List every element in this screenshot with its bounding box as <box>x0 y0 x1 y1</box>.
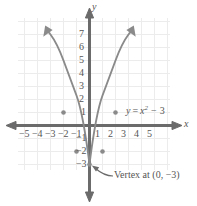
y-axis-arrow-down <box>85 192 93 202</box>
y-tick-label-1: 1 <box>81 107 86 117</box>
x-tick-label-neg4: −4 <box>32 129 42 139</box>
equation-lhs: y <box>126 105 130 116</box>
x-tick-label-5: 5 <box>147 129 152 139</box>
point-2-1 <box>113 110 118 115</box>
x-axis-arrow-right <box>172 121 182 129</box>
x-tick-label-neg3: −3 <box>45 129 55 139</box>
x-tick-label-neg2: −2 <box>58 129 68 139</box>
y-tick-label-3: 3 <box>79 81 84 91</box>
point-neg2-1 <box>61 110 66 115</box>
equation-exponent: 2 <box>145 104 149 112</box>
y-tick-label-6: 6 <box>79 42 84 52</box>
y-axis-label: y <box>92 2 96 12</box>
equation-constant: 3 <box>160 105 165 116</box>
point-1-neg2 <box>100 149 105 154</box>
y-tick-label-7: 7 <box>79 29 84 39</box>
vertex-note-label: Vertex at (0, −3) <box>114 170 180 180</box>
y-tick-label-neg1: −1 <box>76 133 86 143</box>
equation-equals: = <box>132 105 138 116</box>
grid-lines <box>18 18 170 170</box>
y-tick-label-neg3: −3 <box>76 159 86 169</box>
y-tick-label-2: 2 <box>79 94 84 104</box>
parabola-figure: y x −5 −4 −3 −2 −1 1 2 3 4 5 7 6 5 4 3 2… <box>0 0 197 206</box>
point-vertex <box>87 162 92 167</box>
x-tick-label-4: 4 <box>134 129 139 139</box>
y-tick-label-4: 4 <box>79 68 84 78</box>
x-tick-label-2: 2 <box>108 129 113 139</box>
y-tick-label-neg2: −2 <box>76 146 86 156</box>
x-axis-label: x <box>184 119 188 129</box>
equation-minus: − <box>151 105 157 116</box>
x-tick-label-3: 3 <box>121 129 126 139</box>
equation-label: y=x2−3 <box>126 106 165 116</box>
x-tick-label-1: 1 <box>95 129 100 139</box>
y-tick-label-5: 5 <box>79 55 84 65</box>
x-tick-label-neg5: −5 <box>19 129 29 139</box>
x-axis-arrow-left <box>6 121 16 129</box>
